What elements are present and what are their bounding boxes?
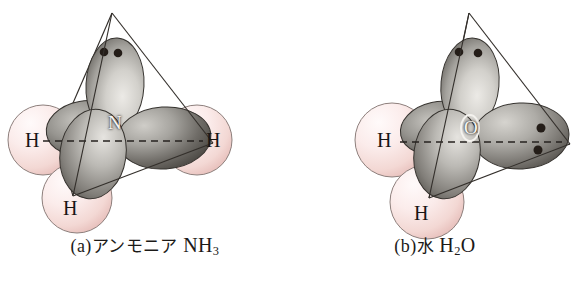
caption-formula-main: H xyxy=(439,234,454,256)
panel-water: H H O (b)水 H2O xyxy=(290,0,580,283)
caption-name-jp: 水 xyxy=(417,236,434,256)
caption-formula: H2O xyxy=(434,234,476,256)
caption-formula-sub: 2 xyxy=(454,244,461,258)
orbital-lobes-group xyxy=(395,36,570,204)
hydrogen-label-right: H xyxy=(206,130,220,150)
center-atom-label-nitrogen: N xyxy=(108,113,122,132)
molecular-orbital-figure: H H H N (a)アンモニア NH3 xyxy=(0,0,580,283)
lone-pair-dot xyxy=(474,49,483,58)
caption-formula-tail: O xyxy=(461,234,476,256)
lone-pair-dot xyxy=(537,124,546,133)
caption-formula: NH3 xyxy=(178,234,220,256)
caption-ammonia: (a)アンモニア NH3 xyxy=(0,232,290,259)
caption-index: (b) xyxy=(394,236,416,256)
hydrogen-label-left: H xyxy=(25,130,39,150)
lone-pair-dot xyxy=(114,49,123,58)
caption-index: (a) xyxy=(71,236,92,256)
orbital-lobes-group xyxy=(42,37,213,204)
lone-pair-dot xyxy=(534,146,543,155)
caption-water: (b)水 H2O xyxy=(290,232,580,259)
hydrogen-label-left: H xyxy=(377,130,391,150)
caption-name-jp: アンモニア xyxy=(92,236,178,256)
caption-formula-sub: 3 xyxy=(213,244,220,258)
hydrogen-label-bottom: H xyxy=(63,198,77,218)
hydrogen-label-bottom: H xyxy=(414,203,428,223)
caption-formula-main: NH xyxy=(183,234,213,256)
center-atom-label-oxygen: O xyxy=(464,118,478,137)
lone-pair-dot xyxy=(455,48,464,57)
panel-ammonia: H H H N (a)アンモニア NH3 xyxy=(0,0,290,283)
